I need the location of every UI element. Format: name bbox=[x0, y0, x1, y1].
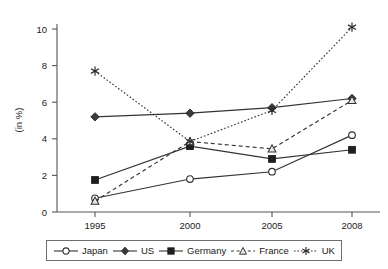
y-tick-label-6: 6 bbox=[42, 97, 47, 108]
data-point-japan-2008 bbox=[349, 132, 356, 139]
data-series-layer bbox=[91, 23, 356, 205]
legend-item-germany[interactable]: Germany bbox=[158, 244, 226, 258]
legend-item-us[interactable]: US bbox=[112, 244, 154, 258]
data-point-germany-1995 bbox=[92, 177, 99, 184]
x-tick-label-2000: 2000 bbox=[179, 220, 200, 231]
x-axis-ticks bbox=[95, 212, 352, 217]
data-point-germany-2005 bbox=[269, 156, 276, 163]
filled-square-icon bbox=[158, 244, 184, 258]
data-point-japan-2000 bbox=[187, 176, 194, 183]
y-tick-label-2: 2 bbox=[42, 170, 47, 181]
series-us bbox=[91, 94, 356, 121]
x-tick-label-1995: 1995 bbox=[84, 220, 105, 231]
y-tick-label-10: 10 bbox=[36, 24, 47, 35]
series-line-germany bbox=[95, 146, 352, 180]
legend-label-france: France bbox=[258, 246, 289, 256]
y-axis-ticks bbox=[52, 29, 57, 212]
legend-label-germany: Germany bbox=[186, 246, 226, 256]
y-axis-title: (in %) bbox=[13, 108, 24, 133]
series-germany bbox=[92, 143, 356, 184]
series-france bbox=[91, 96, 356, 204]
data-point-us-1995 bbox=[91, 113, 99, 121]
series-uk bbox=[91, 23, 356, 147]
asterisk-icon bbox=[293, 244, 319, 258]
legend-item-france[interactable]: France bbox=[230, 244, 289, 258]
legend-label-uk: UK bbox=[321, 246, 335, 256]
plot-area: 10 8 6 4 2 0 (in %) 1995 2000 2005 2008 bbox=[0, 0, 388, 232]
open-circle-icon bbox=[53, 244, 79, 258]
chart-svg: 10 8 6 4 2 0 (in %) 1995 2000 2005 2008 bbox=[0, 0, 388, 232]
legend-item-japan[interactable]: Japan bbox=[53, 244, 108, 258]
legend-label-japan: Japan bbox=[81, 246, 108, 256]
chart-legend: Japan US Germany France bbox=[46, 240, 342, 261]
series-line-us bbox=[95, 99, 352, 117]
x-tick-label-2008: 2008 bbox=[341, 220, 362, 231]
y-tick-label-0: 0 bbox=[42, 207, 47, 218]
series-line-uk bbox=[95, 27, 352, 141]
y-tick-label-4: 4 bbox=[42, 133, 47, 144]
y-tick-label-8: 8 bbox=[42, 60, 47, 71]
data-point-germany-2008 bbox=[349, 146, 356, 153]
filled-diamond-icon bbox=[112, 244, 138, 258]
x-tick-label-2005: 2005 bbox=[261, 220, 282, 231]
legend-item-uk[interactable]: UK bbox=[293, 244, 335, 258]
open-triangle-icon bbox=[230, 244, 256, 258]
line-chart: 10 8 6 4 2 0 (in %) 1995 2000 2005 2008 bbox=[0, 0, 388, 269]
data-point-uk-1995 bbox=[91, 66, 99, 75]
legend-label-us: US bbox=[140, 246, 154, 256]
data-point-us-2000 bbox=[186, 109, 194, 117]
data-point-japan-2005 bbox=[269, 168, 276, 175]
